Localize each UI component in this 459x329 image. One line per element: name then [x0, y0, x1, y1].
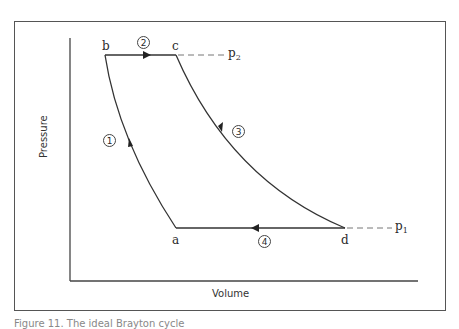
p1-subscript: 1	[403, 226, 408, 235]
point-b-label: b	[102, 40, 110, 52]
y-axis-label: Pressure	[38, 115, 49, 158]
p2-symbol: p	[228, 46, 236, 60]
step-4-marker: 4	[258, 235, 271, 248]
p2-subscript: 2	[236, 53, 241, 62]
figure-caption: Figure 11. The ideal Brayton cycle	[14, 318, 184, 329]
point-c-label: c	[172, 40, 179, 52]
p1-symbol: p	[395, 219, 403, 233]
x-axis-label: Volume	[212, 288, 249, 299]
p1-label: p1	[395, 220, 408, 232]
point-a-label: a	[172, 234, 179, 246]
step-2-marker: 2	[137, 36, 150, 49]
step-3-marker: 3	[232, 125, 245, 138]
arrow-right-icon	[143, 51, 151, 59]
step-1-marker: 1	[103, 134, 116, 147]
process-3-curve	[176, 55, 345, 228]
arrow-left-icon	[251, 224, 259, 232]
point-d-label: d	[341, 234, 349, 246]
p2-label: p2	[228, 47, 241, 59]
